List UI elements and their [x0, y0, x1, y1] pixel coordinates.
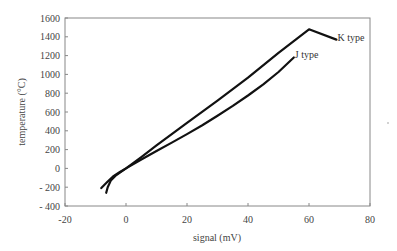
- series-label: K type: [337, 32, 365, 43]
- y-tick-label: 200: [45, 144, 60, 155]
- y-tick-label: 1600: [40, 13, 60, 24]
- y-axis-title: temperature (°C): [16, 78, 28, 146]
- y-tick-label: 400: [45, 125, 60, 136]
- y-tick-label: - 400: [39, 201, 60, 212]
- x-axis-title: signal (mV): [193, 232, 241, 244]
- x-tick-label: 0: [124, 214, 129, 225]
- y-tick-label: 800: [45, 88, 60, 99]
- x-tick-label: 40: [243, 214, 253, 225]
- y-tick-label: 600: [45, 107, 60, 118]
- y-tick-label: 1000: [40, 69, 60, 80]
- y-tick-label: - 200: [39, 182, 60, 193]
- y-tick-label: 1200: [40, 50, 60, 61]
- x-tick-label: 80: [365, 214, 375, 225]
- series-label: J type: [295, 49, 319, 60]
- stray-dot: [387, 122, 389, 124]
- x-tick-label: -20: [58, 214, 71, 225]
- x-tick-label: 60: [304, 214, 314, 225]
- thermocouple-chart: - 400- 20002004006008001000120014001600 …: [0, 0, 397, 251]
- y-axis: - 400- 20002004006008001000120014001600: [39, 13, 68, 212]
- y-tick-label: 0: [55, 163, 60, 174]
- y-tick-label: 1400: [40, 31, 60, 42]
- x-tick-label: 20: [182, 214, 192, 225]
